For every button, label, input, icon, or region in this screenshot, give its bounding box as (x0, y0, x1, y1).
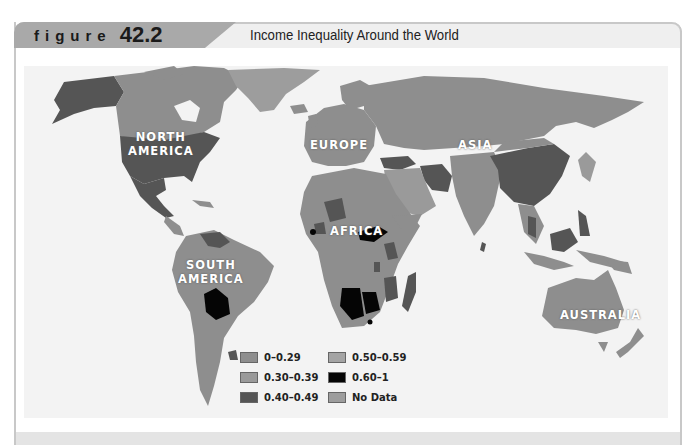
figure-number: 42.2 (120, 22, 163, 48)
label-europe: EUROPE (310, 138, 368, 152)
label-africa: AFRICA (330, 224, 383, 238)
figure-number-tab: figure 42.2 (14, 22, 236, 48)
legend-item: No Data (328, 392, 397, 403)
label-south-america-line2: AMERICA (178, 272, 244, 286)
legend-label: 0.50–0.59 (352, 352, 406, 363)
label-south-america-line1: SOUTH (178, 258, 244, 272)
legend-swatch (328, 392, 346, 403)
legend-swatch (240, 392, 258, 403)
figure-title: Income Inequality Around the World (250, 26, 459, 43)
legend-label: 0.40–0.49 (264, 392, 318, 403)
label-north-america-line1: NORTH (128, 130, 194, 144)
legend-label: No Data (352, 392, 397, 403)
legend-swatch (328, 372, 346, 383)
legend-label: 0.60–1 (352, 372, 389, 383)
label-north-america: NORTH AMERICA (128, 130, 194, 158)
legend-item: 0.30–0.39 (240, 372, 318, 383)
label-asia: ASIA (458, 138, 492, 152)
figure-bottom-bar (14, 432, 682, 445)
legend-item: 0–0.29 (240, 352, 301, 363)
label-south-america: SOUTH AMERICA (178, 258, 244, 286)
legend-swatch (328, 352, 346, 363)
legend-label: 0–0.29 (264, 352, 301, 363)
label-north-america-line2: AMERICA (128, 144, 194, 158)
legend-label: 0.30–0.39 (264, 372, 318, 383)
label-australia: AUSTRALIA (560, 308, 641, 322)
map-legend: 0–0.29 0.30–0.39 0.40–0.49 0.50–0.59 0.6… (240, 352, 460, 414)
legend-item: 0.50–0.59 (328, 352, 406, 363)
legend-item: 0.40–0.49 (240, 392, 318, 403)
figure-word: figure (34, 27, 112, 44)
legend-item: 0.60–1 (328, 372, 389, 383)
legend-swatch (240, 352, 258, 363)
legend-swatch (240, 372, 258, 383)
